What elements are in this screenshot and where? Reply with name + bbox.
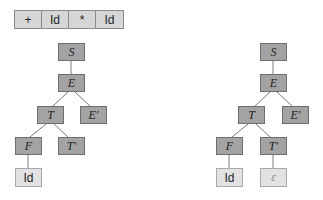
- left-node-t: T: [37, 106, 64, 124]
- right-node-s: S: [260, 43, 287, 61]
- right-node-t: T: [238, 106, 265, 124]
- right-node-e: E: [260, 74, 287, 92]
- parse-tree-diagram: + Id * Id S E T E′ F T′ Id S E T E′ F T′…: [0, 0, 323, 200]
- token-cell: Id: [42, 11, 69, 28]
- token-cell: Id: [96, 11, 123, 28]
- right-node-epsilon: ε: [260, 168, 287, 187]
- right-node-e-prime: E′: [282, 106, 309, 124]
- right-node-t-prime: T′: [260, 137, 287, 155]
- input-token-strip: + Id * Id: [14, 10, 124, 29]
- left-node-f: F: [15, 137, 42, 155]
- left-node-e-prime: E′: [80, 106, 107, 124]
- left-node-s: S: [58, 43, 85, 61]
- right-node-id: Id: [216, 168, 243, 187]
- right-node-f: F: [216, 137, 243, 155]
- left-node-id: Id: [15, 168, 42, 187]
- left-node-t-prime: T′: [58, 137, 85, 155]
- left-node-e: E: [58, 74, 85, 92]
- token-cell: *: [69, 11, 96, 28]
- token-cell: +: [15, 11, 42, 28]
